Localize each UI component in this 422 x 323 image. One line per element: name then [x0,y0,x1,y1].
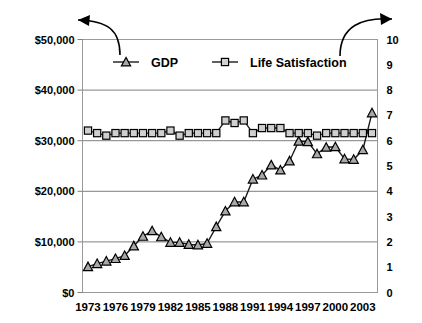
data-point-marker-square [231,119,238,126]
data-point-marker-square [94,130,101,137]
right-axis-tick-label: 9 [387,59,393,71]
x-axis-tick-label: 1973 [75,301,101,313]
left-axis-tick-label: $0 [62,287,74,299]
right-axis-tick-label: 7 [387,109,393,121]
chart-canvas: $0$10,000$20,000$30,000$40,000$50,000 01… [0,0,422,323]
left-axis-tick-label: $40,000 [35,84,75,96]
data-point-marker-square [149,130,156,137]
chart-background [0,0,422,323]
x-axis-tick-label: 1994 [268,301,294,313]
right-axis-tick-label: 3 [387,211,393,223]
gdp-life-satisfaction-chart: $0$10,000$20,000$30,000$40,000$50,000 01… [0,0,422,323]
right-axis-tick-label: 2 [387,236,393,248]
data-point-marker-square [222,117,229,124]
x-axis-tick-label: 1985 [185,301,211,313]
data-point-marker-square [84,127,91,134]
data-point-marker-square [158,130,165,137]
data-point-marker-square [304,130,311,137]
data-point-marker-square [332,130,339,137]
right-axis-tick-label: 5 [387,160,393,172]
right-axis-tick-label: 0 [387,287,393,299]
data-point-marker-square [176,132,183,139]
legend-label: Life Satisfaction [250,56,347,70]
data-point-marker-square [240,117,247,124]
x-axis-tick-label: 2000 [323,301,349,313]
legend-marker-square-icon [221,58,228,65]
data-point-marker-square [295,130,302,137]
data-point-marker-square [341,130,348,137]
data-point-marker-square [167,127,174,134]
x-axis-tick-labels: 1973197619791982198519881991199419972000… [75,301,375,313]
data-point-marker-square [130,130,137,137]
data-point-marker-square [277,124,284,131]
data-point-marker-square [203,130,210,137]
data-point-marker-square [213,130,220,137]
data-point-marker-square [103,132,110,139]
x-axis-tick-label: 1979 [130,301,156,313]
legend-label: GDP [151,56,178,70]
data-point-marker-square [323,130,330,137]
right-axis-tick-label: 10 [387,34,399,46]
data-point-marker-square [359,130,366,137]
data-point-marker-square [121,130,128,137]
data-point-marker-square [313,132,320,139]
x-axis-tick-label: 1997 [295,301,321,313]
x-axis-tick-label: 2003 [350,301,376,313]
x-axis-tick-label: 1988 [213,301,239,313]
left-axis-tick-label: $10,000 [35,236,75,248]
left-axis-tick-label: $50,000 [35,34,75,46]
data-point-marker-square [112,130,119,137]
right-axis-tick-label: 1 [387,261,393,273]
data-point-marker-square [350,130,357,137]
left-axis-tick-label: $20,000 [35,185,75,197]
data-point-marker-square [185,130,192,137]
right-axis-tick-label: 6 [387,135,393,147]
data-point-marker-square [258,124,265,131]
right-axis-tick-label: 8 [387,84,393,96]
data-point-marker-square [268,124,275,131]
data-point-marker-square [194,130,201,137]
data-point-marker-square [286,130,293,137]
x-axis-tick-label: 1976 [103,301,129,313]
x-axis-tick-label: 1991 [240,301,266,313]
data-point-marker-square [139,130,146,137]
x-axis-tick-label: 1982 [158,301,184,313]
data-point-marker-square [249,130,256,137]
left-axis-tick-label: $30,000 [35,135,75,147]
right-axis-tick-label: 4 [387,185,394,197]
data-point-marker-square [368,130,375,137]
